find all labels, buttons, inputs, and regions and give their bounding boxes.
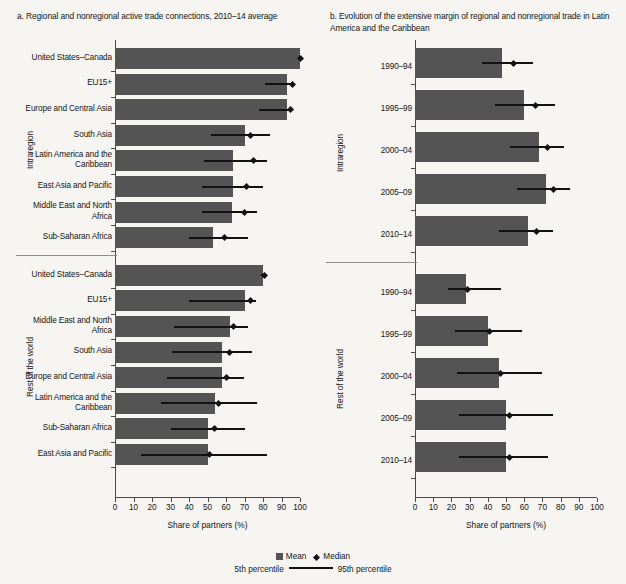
percentile-line-icon [289, 567, 333, 569]
mean-swatch-icon [276, 553, 283, 560]
y-tick [411, 436, 415, 437]
percentile-whisker [189, 300, 256, 302]
x-tick [470, 498, 471, 502]
percentile-whisker [448, 288, 501, 290]
x-tick [415, 498, 416, 502]
panel-a-plot [115, 40, 300, 498]
median-marker [243, 183, 250, 190]
x-tick [115, 498, 116, 502]
median-marker [532, 101, 539, 108]
category-label: 1995–99 [342, 94, 412, 124]
y-tick [411, 252, 415, 253]
category-label: 1995–99 [342, 320, 412, 350]
category-label: 2000–04 [342, 362, 412, 392]
legend-row-percentiles: 5th percentile95th percentile [0, 563, 626, 576]
percentile-whisker [499, 230, 554, 232]
x-tick [152, 498, 153, 502]
median-marker [287, 106, 294, 113]
panel-b-plot [415, 40, 597, 498]
y-tick [411, 394, 415, 395]
category-label: Europe and Central Asia [17, 99, 112, 120]
percentile-whisker [517, 188, 570, 190]
y-tick [411, 310, 415, 311]
bar-row [115, 48, 300, 69]
category-label: 2005–09 [342, 404, 412, 434]
median-marker [222, 374, 229, 381]
group-axis-title: Rest of the world [26, 337, 35, 397]
category-label: East Asia and Pacific [17, 444, 112, 465]
panel-a-x-tick-group: 0102030405060708090100 [115, 498, 300, 516]
category-label: 2010–14 [342, 220, 412, 250]
median-marker [506, 453, 513, 460]
median-marker [464, 285, 471, 292]
median-marker [221, 234, 228, 241]
y-tick [411, 84, 415, 85]
legend-p95-label: 95th percentile [338, 565, 392, 574]
bar-row [415, 358, 597, 388]
group-axis-title: Intraregion [336, 134, 345, 172]
bar-row [415, 316, 597, 346]
median-marker [247, 297, 254, 304]
x-tick-label: 100 [287, 503, 313, 512]
category-label: United States–Canada [17, 264, 112, 285]
bar-row [115, 342, 300, 363]
x-tick [433, 498, 434, 502]
median-marker [506, 411, 513, 418]
bar-row [115, 290, 300, 311]
panel-b-x-tick-group: 0102030405060708090100 [415, 498, 597, 516]
bar-row [115, 367, 300, 388]
bar-row [415, 48, 597, 78]
percentile-whisker [510, 146, 565, 148]
y-tick [111, 467, 115, 468]
category-label: 1990–94 [342, 52, 412, 82]
category-label: 2000–04 [342, 136, 412, 166]
panel-b-x-axis-title: Share of partners (%) [415, 520, 597, 530]
bar-row [115, 176, 300, 197]
percentile-whisker [482, 62, 533, 64]
percentile-whisker [167, 377, 245, 379]
panel-a-title: a. Regional and nonregional active trade… [17, 11, 297, 23]
bar-row [115, 418, 300, 439]
x-tick [524, 498, 525, 502]
percentile-whisker [459, 456, 548, 458]
category-label: EU15+ [17, 290, 112, 311]
bar-row [115, 74, 300, 95]
percentile-whisker [202, 211, 258, 213]
bar-row [115, 99, 300, 120]
x-tick [226, 498, 227, 502]
category-label: 1990–94 [342, 278, 412, 308]
bar-row [115, 444, 300, 465]
y-tick [411, 478, 415, 479]
median-marker [215, 400, 222, 407]
panel-b-title: b. Evolution of the extensive margin of … [330, 11, 620, 34]
median-marker [261, 272, 268, 279]
bar-row [115, 227, 300, 248]
bar-row [415, 216, 597, 246]
median-diamond-icon [313, 554, 320, 561]
bar-row [415, 90, 597, 120]
x-tick [263, 498, 264, 502]
percentile-whisker [211, 134, 270, 136]
legend-p5-label: 5th percentile [235, 565, 284, 574]
y-tick [411, 168, 415, 169]
mean-bar [115, 74, 287, 95]
percentile-whisker [161, 402, 257, 404]
median-marker [544, 143, 551, 150]
panel-a-x-axis-title: Share of partners (%) [115, 520, 300, 530]
median-marker [241, 209, 248, 216]
x-tick [189, 498, 190, 502]
mean-bar [115, 265, 263, 286]
bar-row [415, 274, 597, 304]
percentile-whisker [495, 104, 555, 106]
x-tick [579, 498, 580, 502]
x-tick [488, 498, 489, 502]
category-label: 2010–14 [342, 446, 412, 476]
legend-median-label: Median [323, 552, 350, 561]
figure-container: a. Regional and nonregional active trade… [0, 0, 626, 584]
group-separator [326, 262, 417, 263]
median-marker [250, 157, 257, 164]
category-label: 2005–09 [342, 178, 412, 208]
legend: MeanMedian 5th percentile95th percentile [0, 550, 626, 576]
median-marker [550, 185, 557, 192]
bar-row [415, 400, 597, 430]
